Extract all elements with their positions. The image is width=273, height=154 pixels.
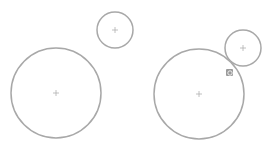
tangent-constraint-icon[interactable] [226, 69, 233, 76]
panel-before [11, 12, 133, 138]
center-mark-icon [196, 91, 202, 97]
panel-after-tangent [154, 30, 261, 139]
center-mark-icon [53, 90, 59, 96]
center-mark-icon [112, 27, 118, 33]
sketch-canvas [0, 0, 273, 154]
center-mark-icon [240, 45, 246, 51]
